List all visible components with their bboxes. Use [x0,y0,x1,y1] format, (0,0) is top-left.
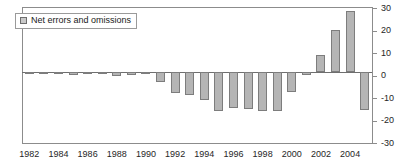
bar-2005 [360,72,369,110]
y-tick-label-10: 10 [381,49,391,58]
x-tick-label-2002: 2002 [311,150,331,159]
y-tick-30 [373,8,377,9]
x-tick-label-1990: 1990 [136,150,156,159]
y-tick-label-0: 0 [381,71,386,80]
bar-1988 [112,72,121,76]
x-tick-label-2000: 2000 [282,150,302,159]
x-tick-label-1986: 1986 [78,150,98,159]
bar-1993 [185,72,194,95]
bar-2002 [316,55,325,72]
x-tick-label-1982: 1982 [19,150,39,159]
y-tick-label-20: 20 [381,26,391,35]
x-tick-label-1988: 1988 [107,150,127,159]
legend-swatch-icon [20,17,27,24]
x-tick-label-1994: 1994 [194,150,214,159]
x-tick-label-2004: 2004 [340,150,360,159]
x-tick-label-1984: 1984 [48,150,68,159]
y-tick--20 [373,121,377,122]
y-tick-0 [373,76,377,77]
bar-1982 [25,72,34,74]
y-tick-label--30: -30 [381,139,394,148]
bar-1994 [200,72,209,100]
bar-1989 [127,72,136,75]
bar-1991 [156,72,165,82]
legend-label: Net errors and omissions [31,16,131,25]
plot-bottom-axis [22,143,372,144]
bar-1986 [83,72,92,74]
bar-2003 [331,30,340,72]
bar-1998 [258,72,267,111]
net-errors-omissions-bar-chart: 3020100-10-20-30 19821984198619881990199… [0,0,416,168]
bar-1997 [244,72,253,109]
y-tick--30 [373,143,377,144]
bar-1999 [273,72,282,111]
bar-2000 [287,72,296,92]
y-tick-label-30: 30 [381,4,391,13]
x-tick-label-1998: 1998 [253,150,273,159]
y-tick-20 [373,31,377,32]
plot-top-border [22,7,372,8]
bar-1987 [98,72,107,74]
y-tick-10 [373,53,377,54]
x-tick-label-1992: 1992 [165,150,185,159]
bar-1985 [69,72,78,75]
y-tick-label--10: -10 [381,94,394,103]
bar-1995 [214,72,223,111]
bar-2001 [302,72,311,75]
y-tick--10 [373,98,377,99]
bar-1983 [39,72,48,74]
bar-1992 [171,72,180,93]
x-tick-label-1996: 1996 [223,150,243,159]
chart-legend: Net errors and omissions [15,13,137,29]
bar-1984 [54,72,63,74]
y-tick-label--20: -20 [381,116,394,125]
bar-1990 [141,72,150,74]
bar-2004 [346,11,355,72]
bar-1996 [229,72,238,108]
